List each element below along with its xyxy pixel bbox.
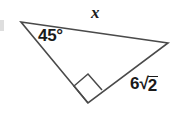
radical-expression: 6 √ 2 [130,75,158,93]
radical-coefficient: 6 [130,75,139,92]
label-angle-45: 45° [38,27,63,44]
radicand-value: 2 [148,76,158,94]
geometry-figure: x 45° 6 √ 2 [0,0,184,119]
label-side-x: x [91,4,100,21]
label-side-6-root-2: 6 √ 2 [130,75,158,93]
